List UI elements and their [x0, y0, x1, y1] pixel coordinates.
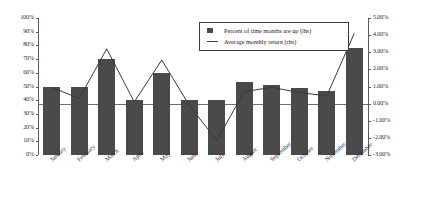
- right-axis-tick: [368, 121, 371, 122]
- left-axis-tick-label: 30%: [2, 110, 34, 116]
- left-axis-tick: [36, 155, 39, 156]
- right-axis-tick: [368, 104, 371, 105]
- right-axis-tick: [368, 155, 371, 156]
- left-axis-tick-label: 60%: [2, 69, 34, 75]
- right-axis-tick: [368, 35, 371, 36]
- left-axis-tick-label: 70%: [2, 55, 34, 61]
- left-axis-tick-label: 50%: [2, 83, 34, 89]
- right-axis-tick-label: -3.00%: [373, 151, 417, 157]
- left-axis-tick-label: 20%: [2, 124, 34, 130]
- left-axis-tick-label: 90%: [2, 28, 34, 34]
- left-axis-tick-label: 0%: [2, 151, 34, 157]
- right-axis-tick-label: -2.00%: [373, 134, 417, 140]
- right-axis-tick-label: 3.00%: [373, 48, 417, 54]
- right-axis-tick-label: 5.00%: [373, 14, 417, 20]
- right-axis-tick: [368, 69, 371, 70]
- left-axis-tick-label: 40%: [2, 96, 34, 102]
- left-axis-tick-label: 80%: [2, 41, 34, 47]
- right-axis-tick-label: -1.00%: [373, 117, 417, 123]
- legend-label-bars: Percent of time months are up (lhs): [224, 26, 311, 35]
- legend-label-line: Average monthly return (rhs): [224, 37, 296, 46]
- right-axis-tick: [368, 52, 371, 53]
- chart-container: 0%10%20%30%40%50%60%70%80%90%100% -3.00%…: [0, 0, 422, 197]
- left-axis-tick-label: 10%: [2, 137, 34, 143]
- right-axis-tick-label: 4.00%: [373, 31, 417, 37]
- right-axis-tick-label: 2.00%: [373, 65, 417, 71]
- right-axis-tick: [368, 87, 371, 88]
- right-axis-tick-label: 1.00%: [373, 83, 417, 89]
- legend-square-icon: [207, 28, 213, 33]
- right-axis-tick: [368, 18, 371, 19]
- right-axis-tick: [368, 138, 371, 139]
- left-axis-tick-label: 100%: [2, 14, 34, 20]
- legend-line-icon: [207, 41, 218, 42]
- right-axis-tick-label: 0.00%: [373, 100, 417, 106]
- chart-legend: Percent of time months are up (lhs) Aver…: [199, 22, 349, 51]
